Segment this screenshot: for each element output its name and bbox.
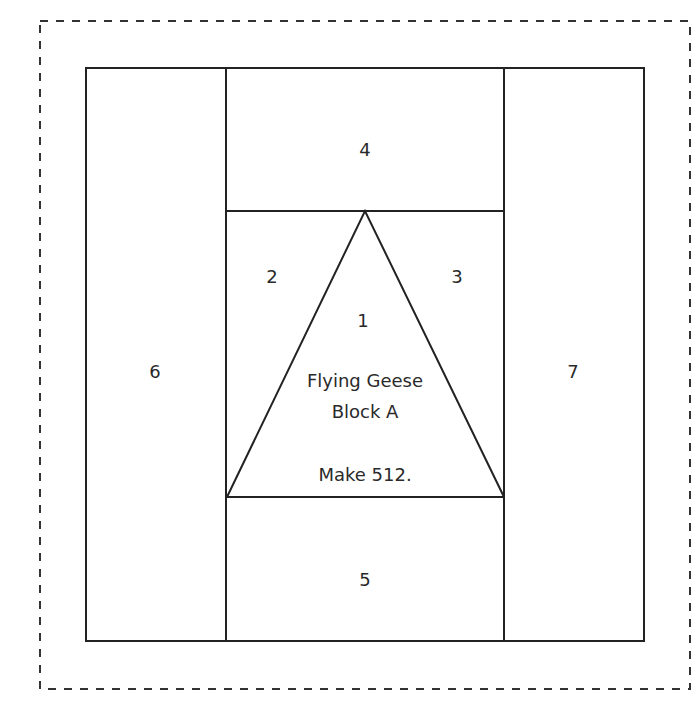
goose-triangle xyxy=(227,211,504,497)
section-5-label: 5 xyxy=(359,569,370,590)
section-4-label: 4 xyxy=(359,139,370,160)
section-7-label: 7 xyxy=(567,361,578,382)
section-1-label: 1 xyxy=(357,310,368,331)
section-2-label: 2 xyxy=(266,266,277,287)
section-3-label: 3 xyxy=(451,266,462,287)
section-6-label: 6 xyxy=(149,361,160,382)
block-name-line1: Flying Geese xyxy=(307,370,423,391)
block-name-line2: Block A xyxy=(332,401,399,422)
make-quantity: Make 512. xyxy=(318,464,411,485)
pattern-diagram: 1 2 3 4 5 6 7 Flying Geese Block A Make … xyxy=(0,0,691,705)
